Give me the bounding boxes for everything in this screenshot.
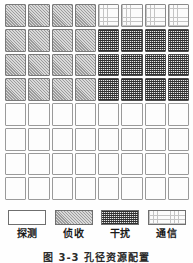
grid-cell xyxy=(98,78,119,101)
legend-label-dots: 通信 xyxy=(156,228,177,240)
grid-cell xyxy=(75,54,96,77)
grid-cell xyxy=(121,128,142,151)
grid-cell xyxy=(28,29,49,52)
legend-swatch-dark xyxy=(101,210,139,225)
grid-cell-fill xyxy=(145,103,166,126)
grid-cell xyxy=(98,177,119,200)
grid-cell xyxy=(52,177,73,200)
grid-cell xyxy=(121,177,142,200)
grid-cell xyxy=(168,153,189,176)
grid-cell-fill xyxy=(5,128,26,151)
legend-label-blank: 探测 xyxy=(17,228,38,240)
grid-cell xyxy=(168,128,189,151)
grid-cell-fill xyxy=(28,153,49,176)
grid-cell-fill xyxy=(28,29,49,52)
grid-cell-fill xyxy=(121,4,142,27)
grid-cell-fill xyxy=(168,177,189,200)
grid-cell-fill xyxy=(145,29,166,52)
grid-cell xyxy=(28,177,49,200)
grid-cell-fill xyxy=(28,54,49,77)
grid-cell xyxy=(52,78,73,101)
grid-cell xyxy=(5,4,26,27)
grid-cell-fill xyxy=(5,54,26,77)
legend: 探测 侦收 干扰 通信 xyxy=(4,210,190,250)
grid-cell-fill xyxy=(98,103,119,126)
grid-cell xyxy=(145,177,166,200)
grid-cell-fill xyxy=(28,4,49,27)
legend-item-blank: 探测 xyxy=(4,210,51,250)
grid-cell-fill xyxy=(145,78,166,101)
grid-cell xyxy=(145,54,166,77)
grid-cell-fill xyxy=(145,153,166,176)
grid-cell xyxy=(121,29,142,52)
grid-cell-fill xyxy=(168,128,189,151)
figure-caption: 图 3-3 孔径资源配置 xyxy=(0,252,193,263)
grid-cell-fill xyxy=(52,54,73,77)
grid-cell-fill xyxy=(168,103,189,126)
grid-cell-fill xyxy=(168,4,189,27)
aperture-resource-grid xyxy=(4,3,190,201)
grid-cell xyxy=(5,78,26,101)
grid-cell xyxy=(168,4,189,27)
grid-cell-fill xyxy=(98,4,119,27)
grid-cell xyxy=(5,103,26,126)
legend-item-dots: 通信 xyxy=(144,210,191,250)
grid-cell-fill xyxy=(75,153,96,176)
grid-cell xyxy=(52,103,73,126)
grid-cell xyxy=(52,153,73,176)
grid-cell xyxy=(28,78,49,101)
grid-cell xyxy=(5,29,26,52)
grid-cell xyxy=(168,103,189,126)
grid-cell-fill xyxy=(5,153,26,176)
grid-cell-fill xyxy=(168,153,189,176)
grid-cell xyxy=(168,78,189,101)
grid-cell xyxy=(5,153,26,176)
grid-cell xyxy=(52,4,73,27)
grid-cell xyxy=(145,128,166,151)
grid-cell-fill xyxy=(75,29,96,52)
grid-cell-fill xyxy=(52,103,73,126)
grid-cell-fill xyxy=(168,29,189,52)
grid-cell xyxy=(5,128,26,151)
grid-cell-fill xyxy=(5,103,26,126)
grid-cell-fill xyxy=(121,128,142,151)
grid-cell-fill xyxy=(75,54,96,77)
grid-cell xyxy=(52,128,73,151)
grid-cell xyxy=(145,78,166,101)
grid-cell-fill xyxy=(121,29,142,52)
grid-cell xyxy=(5,54,26,77)
grid-cell xyxy=(28,103,49,126)
grid-cell-fill xyxy=(52,153,73,176)
grid-cell-fill xyxy=(5,29,26,52)
legend-label-hatch: 侦收 xyxy=(63,228,84,240)
grid-cell-fill xyxy=(28,128,49,151)
grid-cell-fill xyxy=(168,78,189,101)
legend-swatch-blank xyxy=(8,210,46,225)
grid-cell xyxy=(52,54,73,77)
grid-cell xyxy=(75,103,96,126)
grid-cell-fill xyxy=(52,177,73,200)
legend-swatch-dots xyxy=(148,210,186,225)
grid-cell-fill xyxy=(98,177,119,200)
grid-cell xyxy=(75,78,96,101)
grid-cell xyxy=(75,153,96,176)
grid-cell-fill xyxy=(168,54,189,77)
grid-cell xyxy=(75,4,96,27)
grid-cell-fill xyxy=(75,78,96,101)
grid-cell-fill xyxy=(28,78,49,101)
grid-cell xyxy=(28,4,49,27)
grid-cell-fill xyxy=(5,4,26,27)
figure-page: 探测 侦收 干扰 通信 图 3-3 孔径资源配置 xyxy=(0,0,193,263)
grid-cell-fill xyxy=(121,177,142,200)
grid-cell xyxy=(98,4,119,27)
grid-cell-fill xyxy=(28,177,49,200)
grid-cell-fill xyxy=(121,54,142,77)
grid-cell xyxy=(75,177,96,200)
grid-cell-fill xyxy=(5,78,26,101)
grid-cell xyxy=(145,29,166,52)
grid-cell xyxy=(121,54,142,77)
grid-cell xyxy=(121,78,142,101)
grid-cell xyxy=(168,54,189,77)
grid-cell xyxy=(145,153,166,176)
grid-cell-fill xyxy=(98,153,119,176)
